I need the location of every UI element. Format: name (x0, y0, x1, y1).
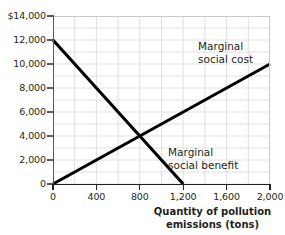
x-axis-line (53, 184, 270, 186)
x-tick-label: 1,200 (170, 192, 197, 202)
y-tick-label: $14,000 (7, 11, 46, 21)
msc-label-line2: social cost (198, 53, 253, 66)
y-tick (47, 111, 54, 112)
x-tick (52, 184, 53, 190)
y-tick-label: 4,000 (19, 131, 46, 141)
y-tick (47, 63, 54, 64)
series-label-marginal-social-benefit: Marginal social benefit (168, 146, 238, 171)
y-tick-label: 8,000 (19, 83, 46, 93)
x-tick-label: 400 (87, 192, 105, 202)
y-tick-label: 2,000 (19, 155, 46, 165)
y-tick-label: 0 (40, 179, 46, 189)
x-axis-title: Quantity of pollution emissions (tons) (140, 206, 285, 231)
y-tick (47, 87, 54, 88)
x-tick (269, 184, 270, 190)
y-tick-label: 10,000 (13, 59, 46, 69)
y-tick (47, 159, 54, 160)
x-tick (96, 184, 97, 190)
x-tick (183, 184, 184, 190)
x-tick (226, 184, 227, 190)
x-tick-label: 2,000 (257, 192, 284, 202)
series-label-marginal-social-cost: Marginal social cost (198, 40, 253, 65)
pollution-externality-chart: 02,0004,0006,0008,00010,00012,000$14,000… (0, 0, 285, 235)
x-tick (139, 184, 140, 190)
plot-frame-top (53, 16, 270, 17)
msb-label-line2: social benefit (168, 159, 238, 172)
y-tick-label: 12,000 (13, 35, 46, 45)
plot-frame-right (269, 16, 270, 184)
y-tick-label: 6,000 (19, 107, 46, 117)
y-tick (47, 135, 54, 136)
x-tick-label: 800 (131, 192, 149, 202)
x-tick-label: 0 (50, 192, 56, 202)
x-axis-title-line1: Quantity of pollution (140, 206, 285, 219)
y-tick (47, 39, 54, 40)
msb-label-line1: Marginal (168, 146, 238, 159)
y-tick (47, 15, 54, 16)
msc-label-line1: Marginal (198, 40, 253, 53)
x-axis-title-line2: emissions (tons) (140, 219, 285, 232)
x-tick-label: 1,600 (213, 192, 240, 202)
